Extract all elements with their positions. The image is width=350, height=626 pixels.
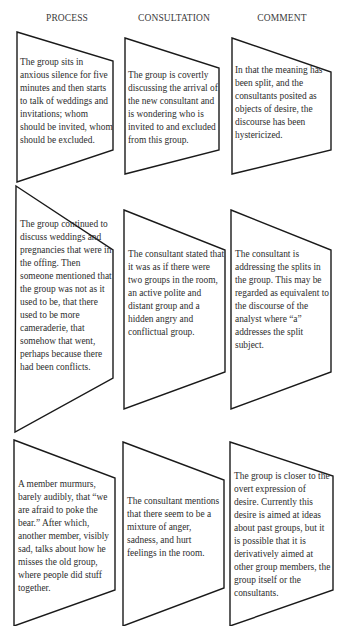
row1-process-text: The group sits in anxious silence for fi… — [20, 56, 113, 147]
row3-comment-text: The group is closer to the overt express… — [234, 470, 332, 600]
row2-comment-text: The consultant is addressing the splits … — [235, 248, 332, 352]
row3-process-text: A member murmurs, barely audibly, that “… — [18, 478, 115, 595]
row1-consultation-text: The group is covertly discussing the arr… — [128, 69, 221, 147]
row1-comment-text: In that the meaning has been split, and … — [235, 64, 331, 142]
row3-consultation-text: The consultant mentions that there seem … — [127, 495, 222, 560]
row2-consultation-text: The consultant stated that it was as if … — [128, 248, 226, 339]
row2-process-text: The group continued to discuss weddings … — [20, 218, 113, 374]
